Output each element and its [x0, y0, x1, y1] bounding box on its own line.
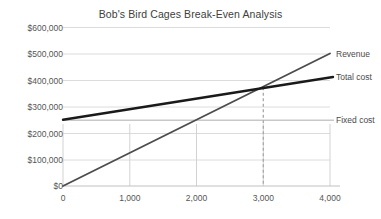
x-tick-label-0: 0 — [38, 193, 88, 203]
y-tick-label-0: $0 — [3, 181, 63, 191]
series-label-total-cost: Total cost — [336, 72, 372, 82]
y-tick-label-300000: $300,000 — [3, 102, 63, 112]
y-tick-label-500000: $500,000 — [3, 49, 63, 59]
x-tick-label-3000: 3,000 — [238, 193, 288, 203]
y-tick-label-200000: $200,000 — [3, 129, 63, 139]
series-line-total-cost — [63, 77, 333, 120]
y-tick-label-600000: $600,000 — [3, 23, 63, 33]
break-even-chart: Bob's Bird Cages Break-Even Analysis — [0, 0, 381, 219]
x-tick-label-4000: 4,000 — [305, 193, 355, 203]
x-tick-label-1000: 1,000 — [105, 193, 155, 203]
x-tick-label-2000: 2,000 — [172, 193, 222, 203]
y-tick-label-100000: $100,000 — [3, 155, 63, 165]
series-label-revenue: Revenue — [336, 49, 370, 59]
plot-area: $600,000 $500,000 $400,000 $300,000 $200… — [0, 0, 381, 219]
series-label-fixed-cost: Fixed cost — [336, 115, 375, 125]
y-tick-label-400000: $400,000 — [3, 76, 63, 86]
